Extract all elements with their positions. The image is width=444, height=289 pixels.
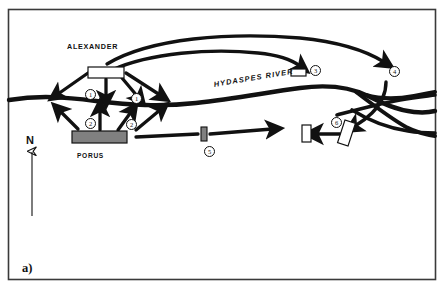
unit-left-6 xyxy=(302,125,311,142)
marker-1b: 1 xyxy=(131,93,142,104)
unit-porus-main xyxy=(72,131,127,143)
marker-2a: 2 xyxy=(85,118,96,129)
unit-alexander-main xyxy=(88,67,124,78)
marker-6: 6 xyxy=(331,117,342,128)
label-alexander: ALEXANDER xyxy=(67,42,118,51)
marker-3: 3 xyxy=(310,65,321,76)
marker-1a: 1 xyxy=(85,89,96,100)
label-north-compass: N xyxy=(26,134,34,146)
marker-2b: 2 xyxy=(126,119,137,130)
marker-5: 5 xyxy=(204,146,215,157)
marker-4: 4 xyxy=(389,66,400,77)
panel-label: a) xyxy=(22,261,32,276)
battle-map-figure: ALEXANDER PORUS HYDASPES RIVER N a) 1122… xyxy=(0,0,444,289)
label-porus: PORUS xyxy=(77,152,104,159)
unit-porus-5 xyxy=(201,127,207,141)
